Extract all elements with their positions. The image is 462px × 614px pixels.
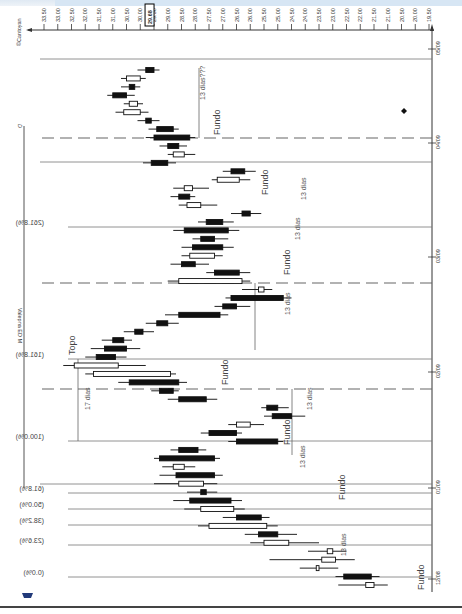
- candle-down: [231, 295, 283, 300]
- price-tick-label: 23.50: [316, 8, 322, 22]
- candle-down: [168, 143, 179, 148]
- title-marker: D: [17, 124, 23, 128]
- price-tick-label: 30.00: [137, 8, 143, 22]
- candle-down: [157, 127, 174, 132]
- candle-down: [201, 236, 215, 241]
- cycle-days-label: 13 dias: [300, 177, 307, 200]
- candle-down: [113, 93, 127, 98]
- date-tick-label: 02/09: [435, 364, 441, 378]
- candle-up: [217, 177, 239, 182]
- candle-down: [146, 118, 152, 123]
- fib-level-label: (0.0%): [23, 569, 44, 577]
- date-tick-label: 04/09: [435, 135, 441, 149]
- fib-level-label: (261.8%): [16, 219, 44, 227]
- price-tick-label: 21.50: [371, 8, 377, 22]
- date-axis: 12/0801/0902/0903/0904/0905/09: [428, 24, 441, 592]
- cycle-days-label: 17 dias: [84, 387, 91, 410]
- fib-level-label: (100.0%): [16, 433, 44, 441]
- candlestick-chart: 33.5033.0032.5032.0031.5031.0030.5030.00…: [0, 0, 462, 614]
- date-tick-label: 03/09: [435, 249, 441, 263]
- fundo-label: Fundo: [282, 419, 292, 445]
- candle-down: [259, 532, 278, 537]
- candle-up: [322, 557, 336, 562]
- candle-down: [113, 338, 124, 343]
- cycle-days-question-label: 13 dias???: [199, 66, 206, 100]
- candle-down: [179, 397, 207, 402]
- candle-down: [215, 270, 240, 275]
- price-tick-label: 31.50: [96, 8, 102, 22]
- fundo-label: Fundo: [416, 564, 426, 590]
- fib-level-label: (161.8%): [16, 351, 44, 359]
- candle-up: [74, 363, 118, 368]
- candle-down: [190, 498, 231, 503]
- candle-up: [264, 540, 289, 545]
- candle-down: [242, 211, 250, 216]
- candle-up: [190, 253, 215, 258]
- fundo-label: Fundo: [337, 474, 347, 500]
- candle-down: [179, 194, 190, 199]
- candle-down: [223, 304, 237, 309]
- candle-up: [173, 464, 184, 469]
- candle-down: [129, 84, 135, 89]
- candle-down: [184, 228, 228, 233]
- candle-up: [259, 287, 265, 292]
- candles: [63, 68, 407, 588]
- candle-up: [327, 549, 333, 554]
- candle-down: [129, 380, 179, 385]
- price-tick-label: 33.50: [41, 8, 47, 22]
- fib-level-label: (50.0%): [19, 501, 44, 509]
- candle-down: [182, 262, 196, 267]
- price-tick-label: 20.50: [399, 8, 405, 22]
- candle-down: [267, 405, 278, 410]
- price-tick-label: 31.00: [110, 8, 116, 22]
- candle-down: [272, 414, 291, 419]
- price-tick-label: 19.50: [426, 8, 432, 22]
- candle-up: [209, 523, 267, 528]
- fundo-label: Fundo: [282, 249, 292, 275]
- candle-down: [179, 447, 198, 452]
- candle-up: [316, 566, 319, 571]
- candle-down: [105, 346, 127, 351]
- arrow-up-icon: [430, 24, 434, 31]
- date-tick-label: 12/08: [435, 571, 441, 585]
- fib-level-label: (23.6%): [19, 537, 44, 545]
- candle-down: [231, 169, 245, 174]
- chart-title: Valepna ED M: [17, 308, 23, 343]
- price-tick-label: 27.00: [220, 8, 226, 22]
- price-tick-label: 21.00: [385, 8, 391, 22]
- diamond-marker-icon: [401, 108, 407, 114]
- price-tick-label: 26.50: [234, 8, 240, 22]
- candle-down: [179, 312, 220, 317]
- price-tick-label: 25.00: [275, 8, 281, 22]
- title-frame: Valepna ED MD: [17, 124, 33, 598]
- candle-down: [96, 355, 115, 360]
- candle-up: [201, 507, 234, 512]
- cycle-days-label: 13 dias: [340, 533, 347, 556]
- topo-label: Topo: [67, 335, 77, 355]
- fib-level-label: (38.2%): [19, 517, 44, 525]
- candle-up: [179, 279, 242, 284]
- candle-up: [179, 481, 204, 486]
- price-axis: 33.5033.0032.5032.0031.5031.0030.5030.00…: [16, 4, 434, 46]
- candle-down: [146, 68, 154, 73]
- price-tick-label: 20.00: [412, 8, 418, 22]
- price-tick-label: 26.00: [247, 8, 253, 22]
- candle-up: [94, 371, 171, 376]
- candle-up: [184, 186, 192, 191]
- candle-down: [237, 439, 278, 444]
- candle-down: [135, 329, 143, 334]
- cycle-days-label: 13 dias: [299, 445, 306, 468]
- candle-down: [201, 490, 207, 495]
- fundo-label: Fundo: [212, 109, 222, 135]
- candle-up: [366, 583, 374, 588]
- cycle-days-label: 13 dias: [306, 387, 313, 410]
- bottom-rule: [0, 606, 462, 608]
- price-tick-label: 24.50: [289, 8, 295, 22]
- candle-down: [154, 135, 190, 140]
- price-tick-label: 27.50: [206, 8, 212, 22]
- cycle-days-label: 13 dias: [284, 292, 291, 315]
- cycle-days-label: 13 dias: [294, 217, 301, 240]
- price-tick-label: 33.00: [55, 8, 61, 22]
- price-tick-label: 28.00: [192, 8, 198, 22]
- candle-up: [173, 152, 184, 157]
